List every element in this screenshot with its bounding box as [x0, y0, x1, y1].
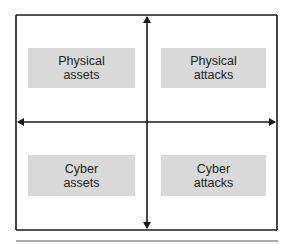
quadrant-physical-assets: Physical assets [28, 48, 135, 88]
quadrant-label-line1: Physical [58, 54, 105, 68]
quadrant-label-line2: attacks [194, 176, 234, 190]
quadrant-label-line1: Cyber [194, 162, 234, 176]
quadrant-label-line2: attacks [190, 68, 237, 82]
frame-and-axes [0, 0, 294, 244]
quadrant-physical-attacks: Physical attacks [161, 48, 266, 88]
quadrant-cyber-assets: Cyber assets [28, 155, 135, 196]
quadrant-label-line1: Cyber [63, 162, 99, 176]
quadrant-cyber-attacks: Cyber attacks [161, 155, 266, 196]
quadrant-diagram: Physical assets Physical attacks Cyber a… [0, 0, 294, 244]
quadrant-label-line1: Physical [190, 54, 237, 68]
quadrant-label-line2: assets [58, 68, 105, 82]
quadrant-label-line2: assets [63, 176, 99, 190]
